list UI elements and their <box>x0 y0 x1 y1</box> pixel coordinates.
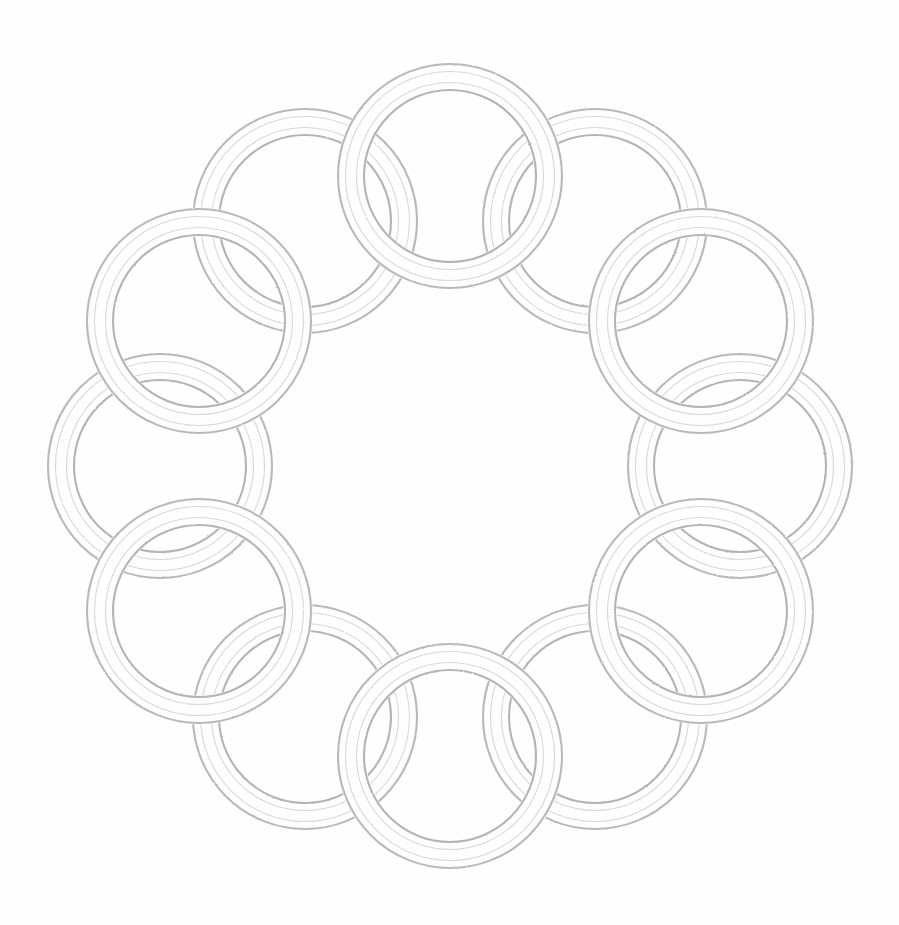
artboard: Interlocking Ring Chain Wreath A closed … <box>0 0 899 925</box>
ring-chain-drawing <box>0 0 899 925</box>
paper-grain <box>0 0 899 925</box>
